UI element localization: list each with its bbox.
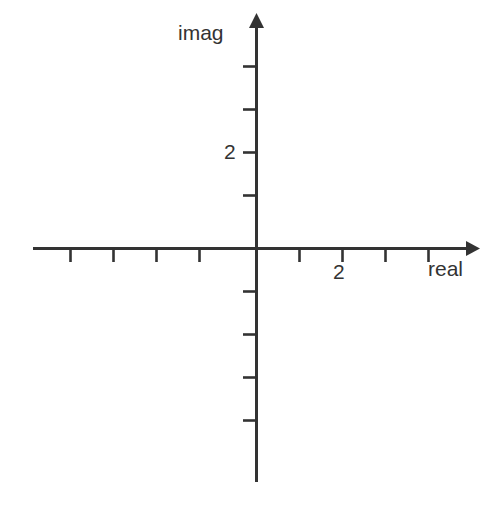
arrow-up-icon — [249, 13, 264, 28]
real-axis-label: real — [428, 258, 463, 279]
imag-axis-ticks-negative — [243, 292, 257, 421]
complex-plane-figure: imag real 2 2 — [0, 0, 495, 509]
axes-canvas — [0, 0, 495, 509]
real-axis-tick-label-2: 2 — [333, 261, 345, 282]
imag-axis-label: imag — [178, 22, 224, 43]
imag-axis-tick-label-2: 2 — [224, 141, 236, 162]
real-axis-ticks-positive — [300, 249, 429, 263]
arrow-right-icon — [466, 241, 480, 256]
imag-axis-ticks-positive — [243, 67, 257, 196]
real-axis-ticks-negative — [71, 249, 200, 263]
